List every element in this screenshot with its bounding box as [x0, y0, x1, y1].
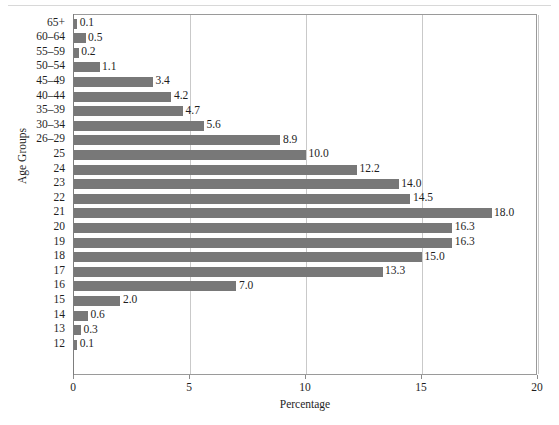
bar-row: 2.0 [74, 294, 538, 309]
bar-row: 0.5 [74, 31, 538, 46]
bar-row: 1.1 [74, 60, 538, 75]
bar-value-label: 8.9 [280, 133, 297, 146]
bar [74, 121, 204, 131]
bar-value-label: 16.3 [452, 220, 475, 233]
category-tick-label: 14 [54, 309, 66, 321]
bar-row: 0.1 [74, 17, 538, 32]
bar [74, 33, 86, 43]
bar [74, 296, 120, 306]
plot-area: 0.10.50.21.13.44.24.75.68.910.012.214.01… [73, 14, 537, 375]
bar-value-label: 0.2 [79, 45, 96, 58]
bar-value-label: 0.1 [77, 337, 94, 350]
bar-value-label: 5.6 [204, 118, 221, 131]
bar-row: 14.5 [74, 192, 538, 207]
bar-row: 10.0 [74, 148, 538, 163]
bar [74, 179, 399, 189]
bar-row: 14.0 [74, 177, 538, 192]
bar-row: 16.3 [74, 236, 538, 251]
x-tick-mark [421, 375, 422, 379]
bar-row: 4.2 [74, 90, 538, 105]
bar-value-label: 14.5 [410, 191, 433, 204]
category-tick-label: 24 [54, 163, 66, 175]
category-tick-label: 13 [54, 323, 66, 335]
category-tick-label: 17 [54, 265, 66, 277]
x-axis-title: Percentage [73, 398, 537, 410]
category-tick-label: 15 [54, 294, 66, 306]
bar-value-label: 0.5 [86, 31, 103, 44]
bar [74, 267, 383, 277]
bar [74, 208, 492, 218]
bar-row: 3.4 [74, 75, 538, 90]
bar [74, 165, 357, 175]
bar-value-label: 15.0 [422, 250, 445, 263]
bar-row: 15.0 [74, 250, 538, 265]
category-tick-label: 50–54 [36, 60, 65, 72]
bar [74, 311, 88, 321]
category-tick-label: 55–59 [36, 46, 65, 58]
category-tick-label: 40–44 [36, 90, 65, 102]
bar-chart-figure: Age Groups 65+60–6455–5950–5445–4940–443… [0, 0, 559, 425]
x-tick-mark [73, 375, 74, 379]
category-tick-label: 19 [54, 236, 66, 248]
bar-row: 5.6 [74, 119, 538, 134]
bar-value-label: 0.1 [77, 16, 94, 29]
category-tick-label: 26–29 [36, 133, 65, 145]
x-tick-label: 10 [299, 381, 311, 393]
bar-row: 0.6 [74, 309, 538, 324]
bar-row: 7.0 [74, 279, 538, 294]
category-tick-label: 12 [54, 338, 66, 350]
bar-row: 13.3 [74, 265, 538, 280]
gridline [538, 15, 539, 374]
x-tick-mark [189, 375, 190, 379]
bar-value-label: 18.0 [492, 206, 515, 219]
category-tick-label: 18 [54, 250, 66, 262]
bar-value-label: 13.3 [383, 264, 406, 277]
bar-value-label: 16.3 [452, 235, 475, 248]
bar-value-label: 12.2 [357, 162, 380, 175]
x-tick-label: 0 [70, 381, 76, 393]
category-tick-label: 23 [54, 177, 66, 189]
bar [74, 325, 81, 335]
category-tick-label: 30–34 [36, 119, 65, 131]
bar-value-label: 1.1 [100, 60, 117, 73]
bar-value-label: 7.0 [236, 279, 253, 292]
category-tick-label: 16 [54, 279, 66, 291]
category-axis: 65+60–6455–5950–5445–4940–4435–3930–3426… [18, 14, 69, 350]
category-tick-label: 45–49 [36, 75, 65, 87]
bar [74, 281, 236, 291]
category-tick-label: 65+ [47, 17, 65, 29]
bar-value-label: 0.6 [88, 308, 105, 321]
bar-value-label: 4.7 [183, 104, 200, 117]
bar [74, 62, 100, 72]
bar [74, 194, 410, 204]
bar [74, 223, 452, 233]
x-tick-label: 5 [186, 381, 192, 393]
bar-row: 0.1 [74, 338, 538, 353]
bar-row: 0.3 [74, 323, 538, 338]
bar-row: 18.0 [74, 206, 538, 221]
top-divider-rule [8, 5, 551, 6]
bar [74, 252, 422, 262]
bar-row: 12.2 [74, 163, 538, 178]
x-tick-mark [537, 375, 538, 379]
bar-row: 4.7 [74, 104, 538, 119]
bar [74, 106, 183, 116]
category-tick-label: 60–64 [36, 31, 65, 43]
category-tick-label: 22 [54, 192, 66, 204]
category-tick-label: 35–39 [36, 104, 65, 116]
bar-value-label: 14.0 [399, 177, 422, 190]
bar-row: 8.9 [74, 133, 538, 148]
bar-value-label: 3.4 [153, 74, 170, 87]
bar-row: 16.3 [74, 221, 538, 236]
category-tick-label: 21 [54, 206, 66, 218]
bar [74, 77, 153, 87]
bar [74, 238, 452, 248]
category-tick-label: 20 [54, 221, 66, 233]
bar [74, 150, 306, 160]
bar [74, 92, 171, 102]
bar-value-label: 10.0 [306, 147, 329, 160]
bar-value-label: 4.2 [171, 89, 188, 102]
bar-value-label: 0.3 [81, 323, 98, 336]
x-tick-label: 20 [531, 381, 543, 393]
bar-value-label: 2.0 [120, 293, 137, 306]
